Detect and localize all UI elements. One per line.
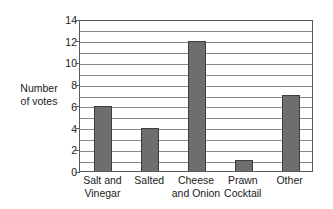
bar-chart-figure: Number of votes 02468101214 Salt andVine… bbox=[0, 0, 333, 209]
y-tick-label: 2 bbox=[37, 145, 77, 155]
y-tick-label: 6 bbox=[37, 102, 77, 112]
y-tick-label: 12 bbox=[37, 37, 77, 47]
x-axis-category-labels: Salt andVinegarSaltedCheeseand OnionPraw… bbox=[79, 174, 313, 208]
y-tick-label: 10 bbox=[37, 58, 77, 68]
y-tick-label: 14 bbox=[37, 15, 77, 25]
x-tick-label: Other bbox=[259, 174, 320, 187]
plot-area bbox=[79, 20, 313, 172]
bars-layer bbox=[80, 21, 312, 171]
bar bbox=[282, 95, 300, 171]
y-tick-label: 8 bbox=[37, 80, 77, 90]
bar bbox=[141, 128, 159, 171]
bar bbox=[94, 106, 112, 171]
y-tick-label: 4 bbox=[37, 124, 77, 134]
x-tick-label-line: Other bbox=[259, 174, 320, 187]
bar bbox=[235, 160, 253, 171]
bar bbox=[188, 41, 206, 171]
x-tick-label-line: Vinegar bbox=[72, 187, 133, 200]
x-tick-label-line: Cocktail bbox=[212, 187, 273, 200]
y-tick-label: 0 bbox=[37, 167, 77, 177]
